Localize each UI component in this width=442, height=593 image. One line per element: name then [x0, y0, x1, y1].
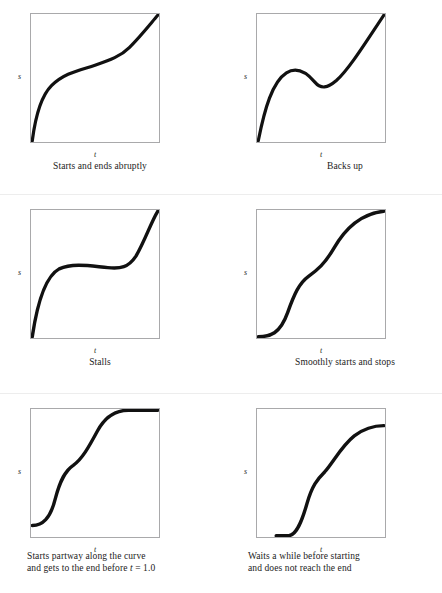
panel-caption: Starts and ends abruptly [0, 160, 200, 172]
panel-caption: Backs up [245, 160, 442, 172]
panel-smoothly-starts-and-stops: s t Smoothly starts and stops [221, 196, 442, 395]
plot-frame [30, 13, 160, 143]
variable-t: t [130, 563, 133, 573]
plot-area: s t [221, 13, 442, 145]
plot-frame [256, 209, 386, 339]
x-axis-label: t [0, 151, 190, 159]
curve-plot [257, 210, 385, 338]
panel-caption: Smoothly starts and stops [245, 356, 442, 368]
timing-curve-path [258, 15, 383, 140]
panel-caption-line-1: Waits a while before starting [248, 550, 438, 562]
panel-caption: Stalls [0, 356, 200, 368]
y-axis-label: s [18, 468, 21, 476]
panel-starts-and-ends-abruptly: s t Starts and ends abruptly [0, 0, 221, 196]
timing-curve-path [32, 410, 157, 525]
curve-plot [31, 210, 159, 338]
panel-backs-up: s t Backs up [221, 0, 442, 196]
timing-curve-path [276, 426, 384, 536]
curve-plot [31, 14, 159, 142]
plot-area: s t [221, 209, 442, 341]
plot-area: s t [221, 408, 442, 540]
curve-plot [257, 409, 385, 537]
y-axis-label: s [244, 73, 247, 81]
panel-caption-line-2: and gets to the end before t = 1.0 [27, 562, 217, 574]
timing-curve-path [258, 211, 383, 336]
x-axis-label: t [226, 347, 416, 355]
curve-plot [31, 409, 159, 537]
figure-row: s t Stalls s t Smoothly starts and stops [0, 196, 442, 395]
panel-caption: Waits a while before starting and does n… [248, 550, 438, 574]
timing-curves-figure: s t Starts and ends abruptly s t Backs u… [0, 0, 442, 593]
x-axis-label: t [0, 347, 190, 355]
panel-caption-line-2: and does not reach the end [248, 562, 438, 574]
timing-curve-path [32, 211, 157, 336]
figure-row: s t Starts and ends abruptly s t Backs u… [0, 0, 442, 196]
y-axis-label: s [244, 269, 247, 277]
panel-caption: Starts partway along the curve and gets … [27, 550, 217, 574]
plot-frame [256, 13, 386, 143]
figure-row: s t Starts partway along the curve and g… [0, 395, 442, 593]
plot-area: s t [0, 209, 221, 341]
y-axis-label: s [18, 73, 21, 81]
panel-waits-a-while-before-starting: s t Waits a while before starting and do… [221, 395, 442, 593]
panel-stalls: s t Stalls [0, 196, 221, 395]
timing-curve-path [32, 15, 157, 140]
plot-frame [30, 209, 160, 339]
plot-frame [30, 408, 160, 538]
panel-caption-line-1: Starts partway along the curve [27, 550, 217, 562]
clipped-footer-text [0, 586, 442, 593]
curve-plot [257, 14, 385, 142]
panel-starts-partway-along-the-curve: s t Starts partway along the curve and g… [0, 395, 221, 593]
y-axis-label: s [18, 269, 21, 277]
plot-area: s t [0, 13, 221, 145]
plot-area: s t [0, 408, 221, 540]
x-axis-label: t [226, 151, 416, 159]
plot-frame [256, 408, 386, 538]
y-axis-label: s [244, 468, 247, 476]
